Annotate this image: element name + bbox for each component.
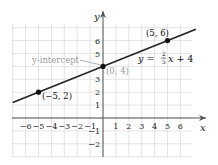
x-axis-label: x	[200, 122, 206, 133]
data-point	[100, 64, 105, 69]
point-right-label: (5, 6)	[146, 28, 169, 38]
x-tick-label: 2	[126, 122, 131, 131]
y-tick-label: 3	[95, 75, 100, 84]
x-tick-label: −4	[46, 122, 58, 131]
equation-label: y = 2 5 x + 4	[137, 50, 193, 65]
x-tick-label: 1	[113, 122, 118, 131]
y-tick-label: 2	[95, 88, 100, 97]
x-tick-label: 5	[165, 122, 170, 131]
eq-denominator: 5	[162, 58, 166, 65]
line-graph: −6−5−4−3−2−1123456−2−112356 y-intercept …	[0, 0, 218, 165]
y-tick-label: 6	[95, 37, 100, 46]
x-tick-label: 4	[152, 122, 157, 131]
x-tick-label: −5	[33, 122, 45, 131]
y-intercept-pointer	[80, 60, 101, 65]
x-tick-label: −2	[71, 122, 83, 131]
data-point	[165, 38, 170, 43]
x-tick-label: 6	[178, 122, 183, 131]
point-left-label: (−5, 2)	[42, 91, 72, 101]
svg-text:x + 4: x + 4	[168, 53, 193, 64]
x-tick-label: −3	[58, 122, 70, 131]
x-tick-label: −6	[20, 122, 32, 131]
eq-numerator: 2	[162, 50, 166, 57]
svg-text:y =: y =	[137, 53, 154, 64]
axes	[12, 11, 206, 157]
data-series	[13, 29, 196, 102]
intercept-point-label: (0, 4)	[106, 66, 129, 76]
x-tick-label: 3	[139, 122, 144, 131]
y-tick-label: −1	[88, 127, 100, 136]
data-point	[36, 90, 41, 95]
y-intercept-label: y-intercept	[31, 55, 80, 65]
y-tick-label: 5	[95, 50, 100, 59]
y-tick-label: 1	[95, 101, 100, 110]
y-tick-label: −2	[88, 140, 100, 149]
y-axis-label: y	[93, 11, 100, 22]
